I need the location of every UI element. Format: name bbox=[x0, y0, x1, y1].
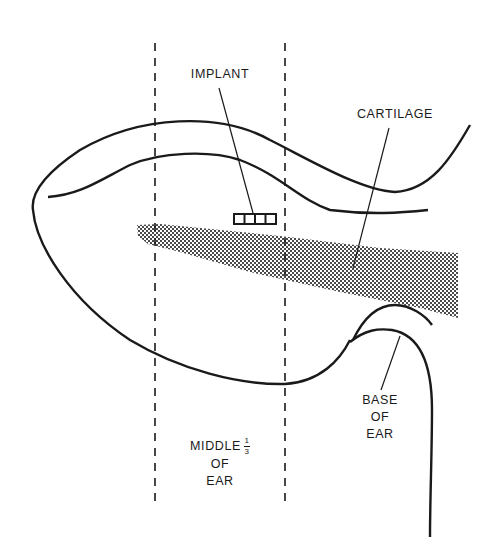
base-upper-curve bbox=[353, 305, 432, 340]
cartilage-label: CARTILAGE bbox=[345, 106, 445, 123]
base-line3: EAR bbox=[350, 426, 410, 443]
base-line1: BASE bbox=[350, 392, 410, 409]
fraction-numerator: 1 bbox=[244, 437, 250, 445]
base-line2: OF bbox=[350, 409, 410, 426]
middle-third-line3: EAR bbox=[160, 473, 280, 490]
base-of-ear-label: BASE OF EAR bbox=[350, 392, 410, 443]
base-leader-line bbox=[381, 336, 400, 390]
implant-shape bbox=[234, 214, 276, 224]
middle-third-line1: MIDDLE13 bbox=[160, 437, 280, 456]
implant-label: IMPLANT bbox=[175, 66, 265, 83]
fraction-denominator: 3 bbox=[244, 448, 250, 456]
middle-third-label: MIDDLE13 OF EAR bbox=[160, 437, 280, 490]
one-third-fraction: 13 bbox=[244, 437, 250, 456]
cartilage-region bbox=[137, 224, 458, 318]
middle-word: MIDDLE bbox=[190, 439, 241, 453]
helix-inner-line bbox=[48, 154, 428, 213]
ear-implant-diagram: IMPLANT CARTILAGE MIDDLE13 OF EAR BASE O… bbox=[0, 0, 487, 552]
middle-third-line2: OF bbox=[160, 456, 280, 473]
implant-leader-line bbox=[219, 88, 253, 213]
